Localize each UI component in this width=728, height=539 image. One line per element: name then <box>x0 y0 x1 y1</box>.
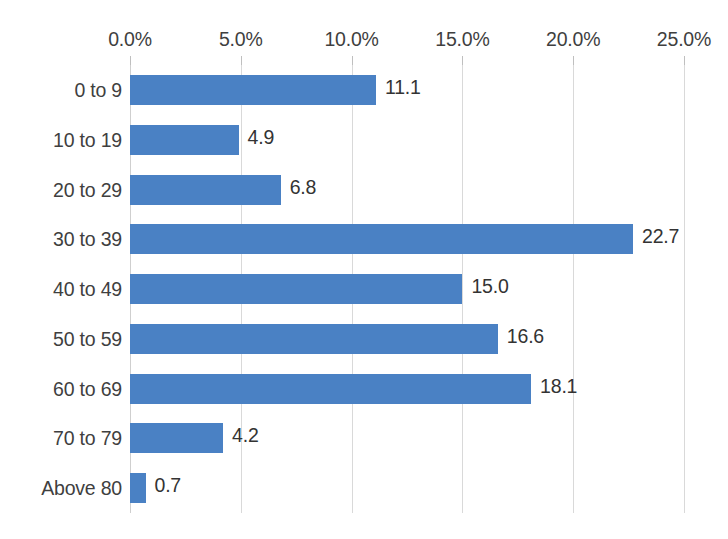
bar-value-label: 4.2 <box>232 420 259 450</box>
bar-chart: 0.0%5.0%10.0%15.0%20.0%25.0% 0 to 910 to… <box>0 0 728 539</box>
y-axis-category-label: 50 to 59 <box>0 324 122 354</box>
bar-row: 6.8 <box>130 165 684 215</box>
y-axis-category-label: 40 to 49 <box>0 274 122 304</box>
bar[interactable] <box>130 75 376 105</box>
bar-row: 11.1 <box>130 65 684 115</box>
bar-value-label: 15.0 <box>471 271 508 301</box>
bar[interactable] <box>130 423 223 453</box>
bar[interactable] <box>130 374 531 404</box>
x-axis-tick-label: 10.0% <box>324 28 378 51</box>
x-axis-tickmark <box>684 56 685 65</box>
x-axis-tickmark <box>352 56 353 65</box>
x-axis-tickmark <box>462 56 463 65</box>
x-axis-tick-label: 25.0% <box>657 28 711 51</box>
y-axis-category-label-row: 0 to 910 to 1920 to 2930 to 3940 to 4950… <box>0 65 122 513</box>
y-axis-category-label: 20 to 29 <box>0 175 122 205</box>
bar-row: 15.0 <box>130 264 684 314</box>
bar-row: 4.9 <box>130 115 684 165</box>
bar-value-label: 11.1 <box>385 72 421 102</box>
bar-row: 22.7 <box>130 214 684 264</box>
x-axis-tick-label-row: 0.0%5.0%10.0%15.0%20.0%25.0% <box>0 28 728 54</box>
bar-row: 4.2 <box>130 413 684 463</box>
bar-value-label: 18.1 <box>540 371 577 401</box>
x-axis-tick-label: 0.0% <box>108 28 152 51</box>
bar[interactable] <box>130 175 281 205</box>
gridline <box>684 65 685 513</box>
y-axis-category-label: 30 to 39 <box>0 224 122 254</box>
bar[interactable] <box>130 324 498 354</box>
y-axis-category-label: 10 to 19 <box>0 125 122 155</box>
bar[interactable] <box>130 224 633 254</box>
plot-area: 11.14.96.822.715.016.618.14.20.7 <box>130 65 684 513</box>
bars-layer: 11.14.96.822.715.016.618.14.20.7 <box>130 65 684 513</box>
x-axis-tickmark <box>573 56 574 65</box>
x-axis-tick-label: 15.0% <box>435 28 489 51</box>
bar[interactable] <box>130 274 462 304</box>
y-axis-category-label: Above 80 <box>0 473 122 503</box>
bar-row: 18.1 <box>130 364 684 414</box>
bar[interactable] <box>130 473 146 503</box>
x-axis-tickmark <box>241 56 242 65</box>
y-axis-category-label: 0 to 9 <box>0 75 122 105</box>
bar-value-label: 0.7 <box>155 470 182 500</box>
bar-row: 16.6 <box>130 314 684 364</box>
y-axis-category-label: 60 to 69 <box>0 374 122 404</box>
x-axis-tickmark <box>130 56 131 65</box>
bar-value-label: 4.9 <box>248 122 275 152</box>
bar-row: 0.7 <box>130 463 684 513</box>
bar-value-label: 22.7 <box>642 221 679 251</box>
bar[interactable] <box>130 125 239 155</box>
bar-value-label: 16.6 <box>507 321 544 351</box>
x-axis-tick-label: 5.0% <box>219 28 263 51</box>
y-axis-category-label: 70 to 79 <box>0 423 122 453</box>
bar-value-label: 6.8 <box>290 172 317 202</box>
x-axis-tick-label: 20.0% <box>546 28 600 51</box>
